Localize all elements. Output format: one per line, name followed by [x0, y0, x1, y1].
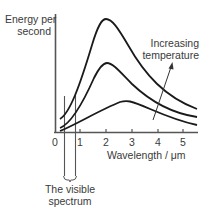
y-axis-label: Energy per second [5, 13, 51, 37]
x-tick-4: 4 [155, 136, 161, 148]
visible-spectrum-bracket [64, 176, 77, 182]
y-axis-label-line2: second [5, 25, 51, 37]
visible-label-line1: The visible [40, 183, 100, 195]
annotation-line1: Increasing [141, 37, 199, 49]
x-tick-0: 0 [52, 136, 58, 148]
x-axis-label: Wavelength / μm [107, 149, 186, 161]
visible-spectrum-label: The visible spectrum [40, 183, 100, 207]
x-tick-2: 2 [103, 136, 109, 148]
y-axis-label-line1: Energy per [5, 13, 51, 25]
x-tick-1: 1 [77, 136, 83, 148]
arrow-head-icon [169, 62, 174, 70]
x-tick-5: 5 [180, 136, 186, 148]
annotation-line2: temperature [141, 49, 199, 61]
x-tick-3: 3 [129, 136, 135, 148]
visible-label-line2: spectrum [40, 195, 100, 207]
temperature-annotation: Increasing temperature [141, 37, 199, 61]
